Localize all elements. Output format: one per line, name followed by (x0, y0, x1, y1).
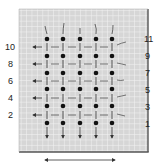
row-label-1: 1 (145, 119, 150, 129)
row-label-2: 2 (8, 110, 13, 120)
row-label-4: 4 (8, 93, 13, 103)
row-label-9: 9 (145, 51, 150, 61)
row-label-5: 5 (145, 85, 150, 95)
grid-panel (19, 9, 149, 152)
row-label-3: 3 (145, 102, 150, 112)
row-label-6: 6 (8, 76, 13, 86)
row-label-7: 7 (145, 68, 150, 78)
row-label-11: 11 (144, 34, 153, 44)
stitch-diagram: 10 8 6 4 2 11 9 7 5 3 1 (0, 0, 160, 164)
row-label-8: 8 (8, 59, 13, 69)
row-label-10: 10 (5, 42, 15, 52)
diagram-canvas (0, 0, 160, 164)
